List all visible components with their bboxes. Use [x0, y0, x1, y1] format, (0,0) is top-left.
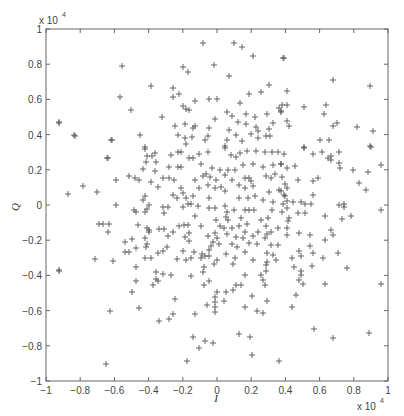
plus-marker: [269, 149, 275, 155]
plus-marker: [270, 162, 276, 168]
plus-marker: [255, 229, 261, 235]
y-tick-label: 0: [36, 200, 42, 211]
plus-marker: [267, 133, 273, 139]
plus-marker: [235, 119, 241, 125]
plus-marker: [192, 213, 198, 219]
plus-marker: [166, 164, 172, 170]
plus-marker: [198, 223, 204, 229]
x-tick-label: −0.8: [70, 385, 90, 396]
plus-marker: [301, 104, 307, 110]
plus-marker: [252, 193, 258, 199]
plus-marker: [149, 153, 155, 159]
plus-marker: [317, 137, 323, 143]
plus-marker: [206, 205, 212, 211]
plus-marker: [161, 226, 167, 232]
plus-marker: [126, 173, 132, 179]
plus-marker: [212, 309, 218, 315]
plus-marker: [232, 255, 238, 261]
plus-marker: [170, 85, 176, 91]
plus-marker: [231, 207, 237, 213]
plus-marker: [205, 149, 211, 155]
plus-marker: [108, 137, 114, 143]
plus-marker: [239, 44, 245, 50]
plus-marker: [205, 133, 211, 139]
plus-marker: [226, 73, 232, 79]
plus-marker: [263, 223, 269, 229]
plus-marker: [295, 177, 301, 183]
plus-marker: [236, 331, 242, 337]
plus-marker: [284, 232, 290, 238]
plus-marker: [263, 268, 269, 274]
plus-marker: [200, 40, 206, 46]
plus-marker: [268, 242, 274, 248]
plus-marker: [229, 241, 235, 247]
plus-marker: [260, 197, 266, 203]
plus-marker: [290, 199, 296, 205]
plus-marker: [205, 233, 211, 239]
plus-marker: [113, 177, 119, 183]
plus-marker: [221, 298, 227, 304]
plus-marker: [152, 168, 158, 174]
plus-marker: [309, 263, 315, 269]
x-tick-label: −0.4: [139, 385, 159, 396]
plus-marker: [170, 94, 176, 100]
plus-marker: [107, 308, 113, 314]
plus-marker: [201, 264, 207, 270]
plus-marker: [229, 225, 235, 231]
plus-marker: [133, 264, 139, 270]
plus-marker: [229, 113, 235, 119]
plus-marker: [237, 150, 243, 156]
plus-marker: [334, 120, 340, 126]
plus-marker: [230, 261, 236, 267]
plus-marker: [321, 111, 327, 117]
plus-marker: [337, 165, 343, 171]
plus-marker: [344, 265, 350, 271]
plus-marker: [188, 273, 194, 279]
plus-marker: [263, 262, 269, 268]
plus-marker: [233, 234, 239, 240]
plus-marker: [136, 305, 142, 311]
plus-marker: [273, 257, 279, 263]
plus-marker: [295, 210, 301, 216]
plus-marker: [153, 269, 159, 275]
plus-marker: [196, 185, 202, 191]
plus-marker: [196, 345, 202, 351]
plus-marker: [260, 164, 266, 170]
plus-marker: [292, 163, 298, 169]
plus-marker: [183, 195, 189, 201]
plus-marker: [65, 191, 71, 197]
plus-marker: [196, 151, 202, 157]
plus-marker: [367, 83, 373, 89]
plus-marker: [56, 120, 62, 126]
plus-marker: [172, 123, 178, 129]
plus-marker: [242, 272, 248, 278]
plus-marker: [71, 132, 77, 138]
y-multiplier-exponent: 4: [62, 11, 66, 18]
plus-marker: [246, 91, 252, 97]
x-axis-ticks: −1−0.8−0.6−0.4−0.200.20.40.60.81: [40, 29, 391, 396]
plus-marker: [281, 151, 287, 157]
plus-marker: [249, 293, 255, 299]
plus-marker: [213, 217, 219, 223]
plus-marker: [242, 249, 248, 255]
y-tick-label: −0.2: [22, 235, 42, 246]
plus-marker: [113, 202, 119, 208]
plus-marker: [153, 159, 159, 165]
plus-marker: [240, 235, 246, 241]
plus-marker: [368, 144, 374, 150]
plus-marker: [242, 229, 248, 235]
plus-marker: [183, 106, 189, 112]
plus-marker: [110, 258, 116, 264]
plus-marker: [279, 174, 285, 180]
plus-marker: [264, 250, 270, 256]
plus-marker: [289, 304, 295, 310]
plus-marker: [293, 292, 299, 298]
plus-marker: [366, 330, 372, 336]
plus-marker: [200, 269, 206, 275]
plus-marker: [204, 302, 210, 308]
plus-marker: [148, 255, 154, 261]
plus-marker: [348, 213, 354, 219]
plus-marker: [223, 289, 229, 295]
plus-marker: [250, 53, 256, 59]
plus-marker: [336, 160, 342, 166]
